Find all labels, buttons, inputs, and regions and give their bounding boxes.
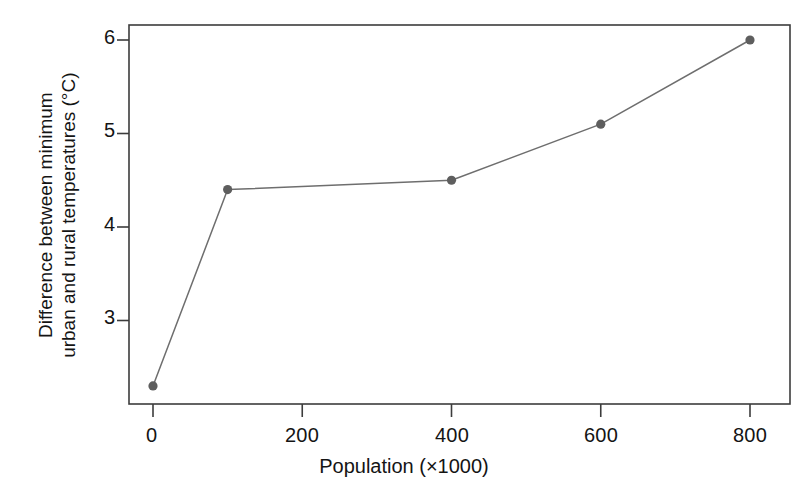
x-axis-ticks — [153, 404, 750, 417]
y-tick-label-4: 4 — [104, 213, 115, 236]
y-axis-title-line-2: urban and rural temperatures (°C) — [57, 72, 80, 357]
axis-frame — [129, 25, 790, 404]
y-tick-label-6: 6 — [104, 26, 115, 49]
data-point — [745, 35, 754, 44]
data-point — [447, 176, 456, 185]
y-axis-title-line-1: Difference between minimum — [34, 72, 57, 357]
y-tick-label-3: 3 — [104, 306, 115, 329]
data-line — [153, 40, 750, 386]
x-tick-label-600: 600 — [584, 424, 618, 447]
x-tick-label-200: 200 — [285, 424, 319, 447]
data-point — [596, 120, 605, 129]
y-axis-ticks — [117, 40, 129, 321]
x-tick-label-0: 0 — [146, 424, 157, 447]
x-tick-label-400: 400 — [435, 424, 469, 447]
chart-figure: Difference between minimum urban and rur… — [0, 0, 808, 500]
data-point — [148, 381, 157, 390]
y-tick-label-5: 5 — [104, 119, 115, 142]
x-tick-label-800: 800 — [733, 424, 767, 447]
x-axis-title: Population (×1000) — [0, 455, 808, 478]
data-point — [223, 185, 232, 194]
plot-frame — [129, 25, 790, 404]
plot-area — [0, 0, 808, 500]
y-axis-title: Difference between minimum urban and rur… — [14, 0, 100, 430]
